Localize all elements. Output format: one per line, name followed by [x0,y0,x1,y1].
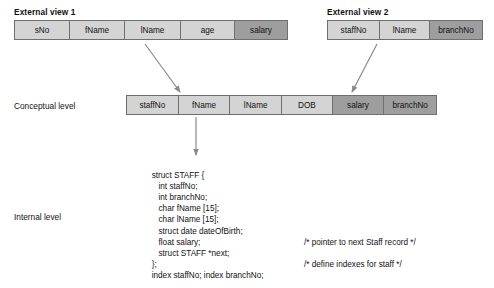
conceptual-cell-salary: salary [333,96,385,114]
external-view-2-cell-lname: lName [380,21,430,39]
external-view-1-caption: External view 1 [14,7,75,17]
code-line: struct date dateOfBirth; [138,214,488,225]
code-line-comment: /* pointer to next Staff record */ [304,237,416,248]
internal-level-label: Internal level [14,212,61,222]
external-view-2-table: staffNo lName branchNo [327,20,483,40]
conceptual-cell-staffno: staffNo [127,96,179,114]
external-view-1-cell-salary: salary [235,21,287,39]
code-line: index staffNo; index branchNo; /* define… [138,259,488,270]
arrow-view1-to-conceptual [145,44,180,92]
external-view-2-cell-branchno: branchNo [430,21,482,39]
internal-level-code-block: struct STAFF { int staffNo; int branchNo… [138,159,488,270]
external-view-1-cell-age: age [181,21,235,39]
conceptual-cell-dob: DOB [282,96,333,114]
code-line: char fName [15]; [138,192,488,203]
code-line-comment: /* define indexes for staff */ [304,259,402,270]
code-line: float salary; [138,226,488,237]
conceptual-cell-lname: lName [230,96,282,114]
external-view-1-table: sNo fName lName age salary [14,20,288,40]
external-view-1-cell-fname: fName [70,21,125,39]
code-line: int staffNo; [138,170,488,181]
code-line-text: index staffNo; index branchNo; [152,271,264,280]
conceptual-cell-branchno: branchNo [384,96,436,114]
conceptual-level-table: staffNo fName lName DOB salary branchNo [126,95,437,115]
external-view-2-cell-staffno: staffNo [328,21,380,39]
external-view-1-cell-sno: sNo [15,21,70,39]
external-view-1-cell-lname: lName [125,21,181,39]
code-line: int branchNo; [138,181,488,192]
code-line: struct STAFF *next; /* pointer to next S… [138,237,488,248]
diagram-canvas: External view 1 sNo fName lName age sala… [0,0,494,288]
arrow-view2-to-conceptual [352,44,377,92]
code-line: struct STAFF { [138,159,488,170]
conceptual-level-label: Conceptual level [14,101,75,111]
code-line: }; [138,248,488,259]
external-view-2-caption: External view 2 [327,7,388,17]
conceptual-cell-fname: fName [179,96,231,114]
code-line: char lName [15]; [138,203,488,214]
